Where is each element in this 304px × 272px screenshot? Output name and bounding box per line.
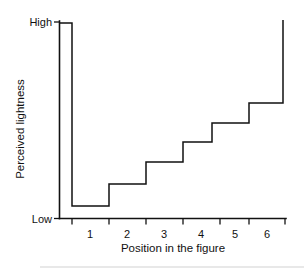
chart-canvas: 1 2 3 4 5 6 High Low Perceived lightness… — [0, 0, 304, 272]
axes-group — [60, 21, 287, 219]
step-curve-path — [60, 20, 283, 206]
y-axis-title: Perceived lightness — [14, 79, 26, 179]
y-axis-low-label: Low — [32, 213, 52, 225]
y-axis-high-label: High — [29, 16, 52, 28]
bottom-rule-divider — [40, 266, 304, 268]
x-tick-label-1: 1 — [87, 228, 93, 240]
x-tick-label-5: 5 — [232, 228, 238, 240]
x-tick-label-4: 4 — [198, 228, 204, 240]
x-axis-title: Position in the figure — [121, 242, 225, 254]
y-tick-group — [54, 22, 60, 219]
x-tick-label-2: 2 — [124, 228, 130, 240]
x-tick-label-6: 6 — [264, 228, 270, 240]
chart-figure: 1 2 3 4 5 6 High Low Perceived lightness… — [0, 0, 304, 272]
x-tick-label-3: 3 — [161, 228, 167, 240]
x-tick-group — [72, 219, 285, 225]
